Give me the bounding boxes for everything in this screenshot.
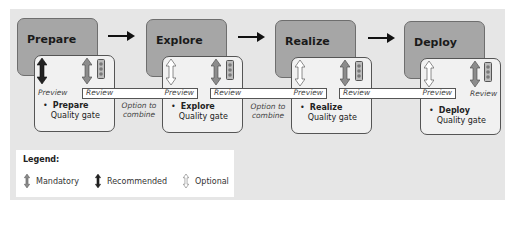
gate-text: Quality gate (179, 112, 228, 121)
phase-label: Deploy (414, 36, 457, 49)
gate-text: Quality gate (51, 111, 100, 120)
mandatory-arrow-icon (340, 60, 350, 86)
phase-label: Realize (285, 35, 330, 48)
gate-text: Quality gate (437, 116, 486, 125)
optional-arrow-icon (182, 174, 190, 188)
legend-item-mandatory: Mandatory (23, 174, 79, 188)
optional-arrow-icon (295, 60, 305, 86)
mandatory-arrow-icon (23, 174, 31, 188)
gate-name: Prepare (53, 101, 89, 110)
gate-name: Deploy (439, 106, 470, 115)
gate-name: Explore (181, 102, 215, 111)
mandatory-arrow-icon (211, 59, 221, 85)
gate-text: Quality gate (308, 113, 357, 122)
option-to-combine-note: Option to combine (117, 101, 161, 119)
optional-arrow-icon (166, 59, 176, 85)
traffic-light-icon (97, 59, 105, 79)
recommended-arrow-icon (94, 174, 102, 188)
flow-arrow-icon (238, 32, 265, 42)
recommended-arrow-icon (37, 58, 47, 84)
legend-item-optional: Optional (182, 174, 229, 188)
optional-arrow-icon (424, 61, 434, 87)
mandatory-arrow-icon (82, 58, 92, 84)
mandatory-arrow-icon (470, 61, 480, 87)
review-preview-band: Review Preview (82, 88, 198, 99)
phase-label: Prepare (27, 33, 76, 46)
traffic-light-icon (355, 61, 363, 81)
flow-arrow-icon (108, 31, 135, 41)
flow-arrow-icon (368, 33, 395, 43)
review-label: Review (470, 89, 497, 98)
legend-title: Legend: (23, 155, 59, 164)
preview-label: Preview (38, 88, 68, 97)
gate-name: Realize (310, 103, 343, 112)
traffic-light-icon (226, 60, 234, 80)
legend-item-recommended: Recommended (94, 174, 167, 188)
option-to-combine-note: Option to combine (246, 102, 290, 120)
review-preview-band: Review Preview (210, 88, 327, 99)
traffic-light-icon (484, 62, 492, 82)
review-preview-band: Review Preview (339, 88, 456, 99)
legend: Legend: Mandatory Recommended Optional (16, 150, 234, 197)
phase-label: Explore (156, 34, 203, 47)
